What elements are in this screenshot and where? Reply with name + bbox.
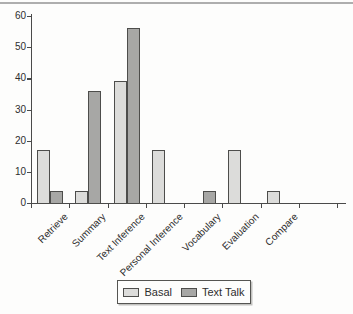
y-axis-tick-label: 0 bbox=[0, 197, 26, 209]
y-axis-tick bbox=[27, 47, 31, 48]
y-axis-line bbox=[31, 14, 32, 204]
y-axis-tick-label: 50 bbox=[0, 41, 26, 53]
text-talk-legend-label: Text Talk bbox=[202, 286, 245, 298]
y-axis-tick-label: 10 bbox=[0, 166, 26, 178]
basal-bar-text-inference bbox=[114, 81, 127, 204]
legend-entry-text-talk: Text Talk bbox=[181, 286, 245, 298]
basal-bar-retrieve bbox=[37, 150, 50, 204]
text-talk-bar-vocabulary bbox=[203, 191, 216, 204]
y-axis-tick-label: 20 bbox=[0, 135, 26, 147]
basal-legend-label: Basal bbox=[144, 286, 172, 298]
basal-bar-compare bbox=[267, 191, 280, 204]
x-axis-tick bbox=[184, 204, 185, 208]
text-talk-bar-retrieve bbox=[50, 191, 63, 204]
legend-entry-basal: Basal bbox=[123, 286, 172, 298]
x-axis-tick bbox=[337, 204, 338, 208]
y-axis-tick-label: 40 bbox=[0, 72, 26, 84]
x-axis-tick bbox=[69, 204, 70, 208]
y-axis-tick-label: 60 bbox=[0, 10, 26, 22]
y-axis-tick bbox=[27, 141, 31, 142]
y-axis-tick bbox=[27, 110, 31, 111]
y-axis-tick-label: 30 bbox=[0, 104, 26, 116]
x-axis-tick bbox=[146, 204, 147, 208]
text-talk-legend-swatch bbox=[181, 288, 197, 297]
basal-bar-evaluation bbox=[228, 150, 241, 204]
x-axis-tick bbox=[261, 204, 262, 208]
x-axis-tick bbox=[108, 204, 109, 208]
y-axis-tick bbox=[27, 16, 31, 17]
x-axis-tick bbox=[222, 204, 223, 208]
y-axis-tick bbox=[27, 172, 31, 173]
figure-canvas: 0102030405060RetrieveSummaryText Inferen… bbox=[0, 0, 353, 314]
x-axis-tick bbox=[31, 204, 32, 208]
basal-legend-swatch bbox=[123, 288, 139, 297]
plot-area: 0102030405060RetrieveSummaryText Inferen… bbox=[0, 0, 353, 314]
legend-box: Basal Text Talk bbox=[117, 280, 251, 304]
basal-bar-summary bbox=[75, 191, 88, 204]
text-talk-bar-text-inference bbox=[127, 28, 140, 204]
y-axis-tick bbox=[27, 78, 31, 79]
basal-bar-personal-inference bbox=[152, 150, 165, 204]
text-talk-bar-summary bbox=[88, 91, 101, 204]
x-axis-tick bbox=[299, 204, 300, 208]
